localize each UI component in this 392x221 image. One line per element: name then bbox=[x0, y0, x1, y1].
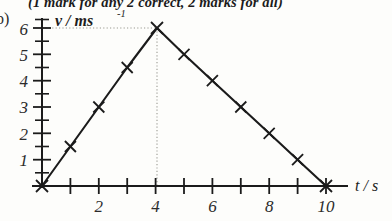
velocity-time-graph-figure: (1 mark for any 2 correct, 2 marks for a… bbox=[0, 0, 392, 221]
x-axis-tick-labels: 2 4 6 8 10 bbox=[95, 197, 335, 216]
y-tick-label: 1 bbox=[20, 151, 29, 170]
x-tick-label: 8 bbox=[265, 197, 274, 216]
x-tick-label: 10 bbox=[318, 197, 336, 216]
y-axis-tick-labels: 1 2 3 4 5 6 bbox=[19, 20, 29, 171]
y-tick-label: 4 bbox=[20, 72, 29, 91]
y-tick-label: 3 bbox=[19, 98, 29, 117]
chart-plot-area: 1 2 3 4 5 6 2 4 6 8 10 v / ms -1 t / s bbox=[0, 0, 392, 221]
y-tick-label: 2 bbox=[20, 125, 29, 144]
x-tick-label: 2 bbox=[95, 197, 104, 216]
y-tick-label: 6 bbox=[20, 20, 29, 39]
data-point-marker bbox=[207, 75, 218, 86]
data-point-marker bbox=[93, 102, 104, 113]
x-axis-title-text: t / s bbox=[355, 177, 378, 194]
data-point-marker bbox=[179, 49, 190, 60]
data-point-marker bbox=[65, 141, 76, 152]
y-axis-title-text: v / ms bbox=[55, 12, 93, 29]
data-point-markers bbox=[36, 22, 332, 192]
data-point-marker bbox=[292, 154, 303, 165]
data-point-marker bbox=[122, 62, 133, 73]
data-point-marker bbox=[235, 102, 246, 113]
x-tick-label: 6 bbox=[208, 197, 217, 216]
y-tick-label: 5 bbox=[20, 46, 29, 65]
y-axis-title: v / ms -1 bbox=[55, 8, 126, 29]
x-tick-label: 4 bbox=[151, 197, 160, 216]
velocity-data-line bbox=[42, 28, 326, 186]
y-axis-title-exponent: -1 bbox=[117, 8, 126, 19]
data-point-marker bbox=[264, 128, 275, 139]
